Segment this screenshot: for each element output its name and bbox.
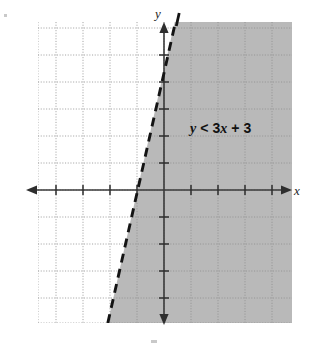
inequality-lhs-var: y [188,121,197,136]
graph-figure: y x y<3x+3 [0,0,310,347]
inequality-relation: < [200,120,208,136]
inequality-plus: + [231,120,239,136]
coordinate-plane-svg: y x y<3x+3 [0,0,310,347]
scan-speck-left [4,14,7,17]
inequality-intercept: 3 [243,120,251,136]
y-axis-label: y [153,6,161,21]
inequality-slope: 3 [212,120,220,136]
inequality-rhs-var: x [219,121,227,136]
x-axis-label: x [293,183,300,198]
scan-speck-bottom [151,340,157,343]
